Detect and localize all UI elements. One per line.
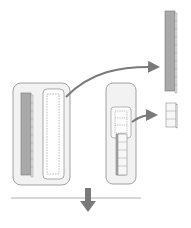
middle-container [106, 83, 136, 184]
output-small-stack [166, 103, 178, 128]
filled-array-bar [21, 93, 33, 177]
left-container [13, 83, 70, 185]
diagram-canvas [0, 0, 191, 228]
solid-cells-stack [116, 134, 127, 175]
output-tall-bar [165, 11, 177, 93]
down-arrow-icon [80, 188, 96, 212]
dashed-reserved-slot [43, 89, 64, 179]
